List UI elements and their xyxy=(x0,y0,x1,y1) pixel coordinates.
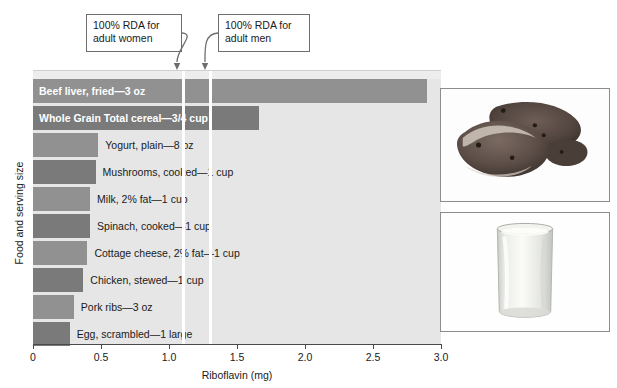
x-axis-tick xyxy=(237,344,238,349)
x-axis-tick-label: 2.5 xyxy=(366,351,381,363)
bar-row: Spinach, cooked—1 cup xyxy=(33,214,441,238)
x-axis-tick-label: 2.0 xyxy=(298,351,313,363)
bar xyxy=(33,160,96,184)
rda-line-men xyxy=(209,71,212,345)
y-axis-title: Food and serving size xyxy=(13,128,25,298)
bar xyxy=(33,214,90,238)
bar-label: Spinach, cooked—1 cup xyxy=(97,214,211,238)
bar-label: Chicken, stewed—1 cup xyxy=(90,268,203,292)
bar-row: Pork ribs—3 oz xyxy=(33,295,441,319)
bar-label: Yogurt, plain—8 oz xyxy=(105,133,193,157)
x-axis-title: Riboflavin (mg) xyxy=(33,369,441,381)
bar xyxy=(33,241,87,265)
x-axis-tick xyxy=(441,344,442,349)
x-axis-tick xyxy=(373,344,374,349)
rda-line-women xyxy=(182,71,185,345)
x-axis-tick-label: 0.5 xyxy=(94,351,109,363)
x-axis-tick xyxy=(169,344,170,349)
callout-rda-men: 100% RDA for adult men xyxy=(218,14,310,52)
bar xyxy=(33,322,70,346)
x-axis-tick-label: 0 xyxy=(30,351,36,363)
milk-glass-photo xyxy=(440,212,610,332)
bar-label: Cottage cheese, 2% fat—1 cup xyxy=(94,241,239,265)
callout-rda-women: 100% RDA for adult women xyxy=(86,14,182,52)
bar-row: Beef liver, fried—3 oz xyxy=(33,79,441,103)
bar-row: Whole Grain Total cereal—3/4 cup xyxy=(33,106,441,130)
x-axis-tick-label: 1.5 xyxy=(230,351,245,363)
bar-label: Mushrooms, cooked—1 cup xyxy=(103,160,234,184)
x-axis-tick xyxy=(33,344,34,349)
bar-row: Chicken, stewed—1 cup xyxy=(33,268,441,292)
x-axis-tick xyxy=(101,344,102,349)
x-axis-tick xyxy=(305,344,306,349)
bar-label: Egg, scrambled—1 large xyxy=(77,322,193,346)
bar xyxy=(33,187,90,211)
beef-liver-photo xyxy=(440,88,610,202)
x-axis-tick-label: 3.0 xyxy=(434,351,449,363)
bar-label: Pork ribs—3 oz xyxy=(81,295,153,319)
bar xyxy=(33,133,98,157)
plot-top-strip xyxy=(33,71,441,79)
bar-row: Egg, scrambled—1 large xyxy=(33,322,441,346)
bar-label: Beef liver, fried—3 oz xyxy=(39,79,145,103)
bar-row: Mushrooms, cooked—1 cup xyxy=(33,160,441,184)
bar-row: Cottage cheese, 2% fat—1 cup xyxy=(33,241,441,265)
bar xyxy=(33,268,83,292)
chart-plot-area: Beef liver, fried—3 ozWhole Grain Total … xyxy=(33,70,441,345)
bar-label: Milk, 2% fat—1 cup xyxy=(97,187,187,211)
bar-row: Milk, 2% fat—1 cup xyxy=(33,187,441,211)
bar xyxy=(33,295,74,319)
bar-row: Yogurt, plain—8 oz xyxy=(33,133,441,157)
x-axis-tick-label: 1.0 xyxy=(162,351,177,363)
